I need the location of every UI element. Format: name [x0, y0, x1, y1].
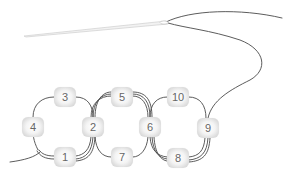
- bead-8: 8: [167, 148, 189, 168]
- thread-end: [166, 12, 282, 22]
- bead-5: 5: [111, 87, 133, 107]
- bead-7: 7: [111, 147, 133, 167]
- stitch-diagram: 1 2 3 4 5 6 7 8 9 10: [0, 0, 288, 179]
- bead-label: 5: [119, 92, 125, 103]
- bead-label: 10: [172, 92, 184, 103]
- bead-10: 10: [167, 87, 189, 107]
- thread-tail: [10, 152, 40, 162]
- bead-1: 1: [54, 147, 76, 167]
- bead-label: 7: [119, 152, 125, 163]
- bead-label: 1: [62, 152, 68, 163]
- bead-2: 2: [82, 117, 104, 137]
- thread-path-graphic: [0, 0, 288, 179]
- bead-label: 4: [30, 122, 36, 133]
- bead-label: 3: [62, 92, 68, 103]
- bead-3: 3: [54, 87, 76, 107]
- needle-icon: [24, 21, 168, 37]
- bead-label: 2: [90, 122, 96, 133]
- bead-label: 8: [175, 153, 181, 164]
- bead-label: 9: [205, 123, 211, 134]
- bead-9: 9: [197, 118, 219, 138]
- bead-6: 6: [139, 117, 161, 137]
- bead-label: 6: [147, 122, 153, 133]
- bead-4: 4: [22, 117, 44, 137]
